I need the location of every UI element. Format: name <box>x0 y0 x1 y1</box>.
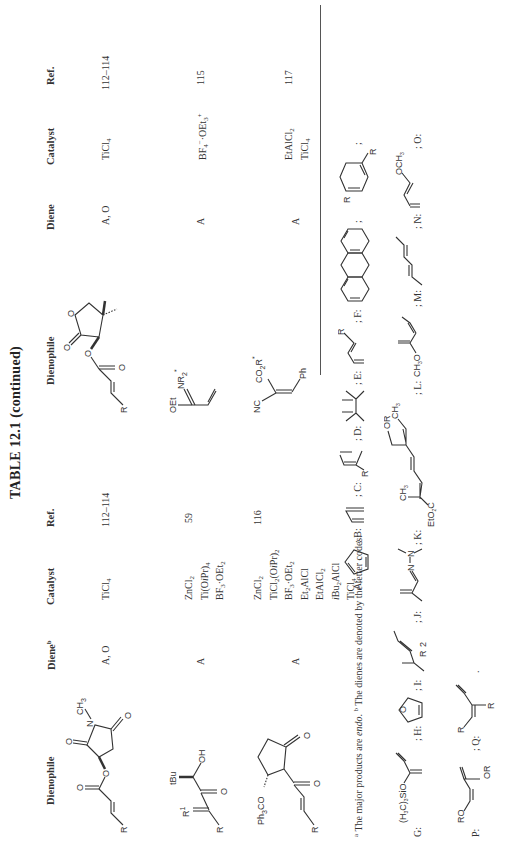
code-H: ; H: <box>412 726 423 741</box>
svg-text:R: R <box>418 650 428 657</box>
footnote-marker-a: a <box>352 834 360 837</box>
catalyst-left-1: TiCl4 <box>100 579 116 600</box>
code-B: ; B: <box>352 528 363 543</box>
diene-J: NN <box>392 545 432 605</box>
svg-text:O: O <box>64 738 74 745</box>
svg-text:O: O <box>123 712 133 719</box>
svg-text:CH3: CH3 <box>398 485 409 501</box>
catalyst-zncl2: ZnCl2 <box>252 549 268 600</box>
diene-G: (H3C)3SiO <box>392 743 432 823</box>
catalyst-bf3oet2: BF3·OEt2 <box>283 549 299 600</box>
code-E: ; E: <box>352 371 363 385</box>
svg-text:O: O <box>83 350 93 357</box>
diene-L: CH3O <box>392 307 432 377</box>
code-A: A: <box>352 580 363 590</box>
svg-text:R: R <box>360 470 370 477</box>
code-D: ; D: <box>352 426 363 441</box>
header-catalyst-right: Catalyst <box>45 128 56 165</box>
header-diene-left: Dieneb <box>45 640 57 670</box>
svg-text:O: O <box>101 770 111 777</box>
svg-text:O: O <box>312 780 322 787</box>
svg-text:2: 2 <box>418 642 428 647</box>
svg-text:O: O <box>62 344 72 351</box>
code-M: ; M: <box>412 290 423 307</box>
diene-F-anthracene <box>336 225 376 305</box>
svg-text:R1: R1 <box>179 807 191 818</box>
ref-right-1: 112–114 <box>100 56 112 90</box>
catalyst-et2alcl: Et2AlCl <box>299 549 315 600</box>
svg-text:OH: OH <box>197 750 207 764</box>
svg-text:R: R <box>342 196 352 203</box>
dienophile-structure-left-3: R O O Ph3CO <box>240 685 334 835</box>
header-ref-right: Ref. <box>45 67 56 85</box>
code-L: ; L: <box>412 381 423 395</box>
code-K: ; K: <box>412 530 423 545</box>
code-P: P: <box>470 829 481 837</box>
svg-text:R: R <box>368 148 378 155</box>
svg-text:CH3: CH3 <box>75 698 87 715</box>
dienophile-structure-right-3: NC CO2R* Ph <box>240 295 324 415</box>
svg-text:O: O <box>219 788 229 795</box>
catalyst-etalcl2: EtAlCl2 <box>314 549 330 600</box>
table-title: TABLE 12.1 (continued) <box>8 0 24 845</box>
code-O-end: ; <box>352 142 363 145</box>
footnote-marker-b: b <box>45 640 53 644</box>
diene-right-2: A <box>195 218 207 225</box>
svg-text:N: N <box>406 551 416 558</box>
code-Q-end: . <box>470 671 481 674</box>
diene-O: RR <box>338 145 378 205</box>
catalyst-right-3: EtAlCl2 TiCl4 <box>283 128 314 160</box>
diene-E: R <box>338 327 372 367</box>
ref-left-1: 112–114 <box>100 493 112 527</box>
svg-text:OR: OR <box>482 765 492 779</box>
code-C: ; C: <box>352 482 363 497</box>
diene-left-1: A, O <box>100 646 112 665</box>
code-I: ; I: <box>412 680 423 691</box>
diene-M <box>392 229 432 289</box>
svg-text:N: N <box>406 565 416 572</box>
footnote-a: The major products are endo. <box>353 714 364 831</box>
diene-A-cyclopentadiene <box>342 547 372 577</box>
diene-K: EtO2C OR CH3 CH3 <box>384 397 440 527</box>
svg-text:CH3O: CH3O <box>412 354 423 377</box>
header-diene-right: Diene <box>45 204 56 230</box>
svg-text:RO: RO <box>456 810 466 824</box>
catalyst-etalcl2: EtAlCl2 <box>283 128 299 160</box>
catalyst-right-1: TiCl4 <box>100 139 116 160</box>
header-ref-left: Ref. <box>45 509 56 527</box>
diene-D <box>338 389 372 425</box>
svg-text:EtO2C: EtO2C <box>426 502 437 527</box>
header-diene-left-text: Diene <box>46 644 57 670</box>
diene-C: R <box>338 443 372 479</box>
svg-text:R: R <box>119 406 129 413</box>
code-F: ; F: <box>352 309 363 323</box>
svg-text:R: R <box>119 826 129 833</box>
catalyst-left-2: ZnCl2 Ti(OiPr)4 BF3·OEt2 <box>183 561 230 600</box>
ref-left-2: 59 <box>183 513 195 523</box>
svg-text:N: N <box>85 721 95 728</box>
svg-text:Ph3CO: Ph3CO <box>256 797 268 825</box>
code-O: ; O: <box>412 134 423 149</box>
svg-text:NC: NC <box>252 400 262 413</box>
catalyst-ticl2oipr2: TiCl2(OiPr)2 <box>268 549 284 600</box>
ref-right-3: 117 <box>283 70 295 85</box>
ref-right-2: 115 <box>195 70 207 85</box>
svg-text:R: R <box>486 702 496 709</box>
header-catalyst-left: Catalyst <box>45 568 56 605</box>
diene-B-butadiene <box>342 495 372 525</box>
catalyst-ticl4: TiCl4 <box>299 128 315 160</box>
svg-text:R: R <box>310 826 320 833</box>
ref-left-3: 116 <box>252 510 264 525</box>
diene-right-3: A <box>290 218 302 225</box>
svg-text:O: O <box>117 364 127 371</box>
diene-Q: RR <box>450 673 500 733</box>
diene-right-1: A, O <box>100 206 112 225</box>
svg-text:OCH3: OCH3 <box>394 152 405 175</box>
svg-text:R: R <box>215 826 225 833</box>
rotated-page: TABLE 12.1 (continued) Dienophile Dieneb… <box>0 0 525 845</box>
dienophile-structure-left-2: R R1 O tBu OH <box>165 695 239 835</box>
diene-P: ROOR <box>450 753 500 823</box>
svg-text:CH3: CH3 <box>390 403 401 419</box>
diene-left-3: A <box>290 658 302 665</box>
svg-text:O: O <box>75 784 85 791</box>
